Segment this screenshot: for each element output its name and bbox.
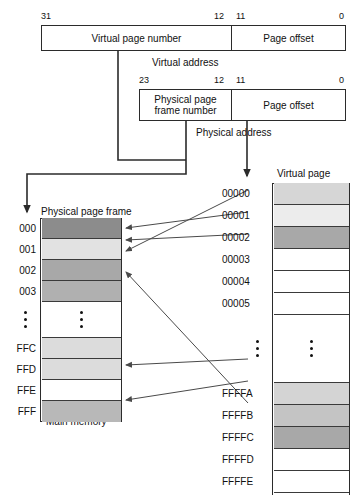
memory-row-label: 00002 — [222, 233, 268, 243]
virtual-page-column-header: Virtual page — [277, 168, 330, 179]
ellipsis-dot — [24, 318, 27, 321]
virtual-address-bit-31-label: 31 — [41, 12, 51, 21]
memory-row — [42, 380, 121, 401]
physical-address-bit-11-label: 11 — [236, 76, 245, 85]
virtual-address-bit-12-label: 12 — [214, 12, 224, 21]
physical-address-caption: Physical address — [196, 127, 272, 138]
memory-row — [274, 293, 349, 315]
physical-page-frame-number-label-line1: Physical page — [154, 94, 216, 105]
virtual-page-number-field: Virtual page number — [41, 25, 232, 51]
memory-row-label: FFC — [8, 344, 36, 354]
memory-row — [274, 227, 349, 249]
ellipsis-dot — [310, 354, 313, 357]
physical-page-frame-column-header: Physical page frame — [41, 206, 132, 217]
memory-row-label: FFE — [8, 386, 36, 396]
memory-row — [274, 405, 349, 427]
memory-row-label: 00003 — [222, 255, 268, 265]
memory-row — [42, 218, 121, 239]
physical-address-bit-23-label: 23 — [139, 76, 149, 85]
memory-row-label: 00005 — [222, 299, 268, 309]
memory-row-label: FFFFE — [222, 477, 268, 487]
memory-row-label: FFFFB — [222, 411, 268, 421]
memory-row — [274, 205, 349, 227]
physical-address-bit-12-label: 12 — [214, 76, 224, 85]
memory-row — [274, 427, 349, 449]
memory-row-label: FFF — [8, 407, 36, 417]
virtual-address-caption: Virtual address — [152, 57, 219, 68]
ellipsis-dot — [80, 318, 83, 321]
memory-row — [274, 449, 349, 471]
ellipsis-dot — [256, 340, 259, 343]
virtual-page-offset-label: Page offset — [263, 33, 313, 44]
memory-row — [274, 383, 349, 405]
memory-row-label: FFD — [8, 365, 36, 375]
memory-row-label: 00004 — [222, 277, 268, 287]
memory-row-label: 00000 — [222, 189, 268, 199]
memory-row-label: FFFFA — [222, 389, 268, 399]
memory-row — [42, 338, 121, 359]
memory-row — [274, 183, 349, 205]
physical-address-bit-0-label: 0 — [339, 76, 344, 85]
ellipsis-dot — [80, 325, 83, 328]
memory-row — [42, 281, 121, 302]
physical-page-frame-number-field: Physical page frame number — [139, 89, 232, 121]
diagram-canvas: 31 12 11 0 Virtual page number Page offs… — [0, 0, 358, 495]
ellipsis-dot — [24, 311, 27, 314]
memory-row-label: 000 — [8, 224, 36, 234]
memory-row-label: 003 — [8, 287, 36, 297]
ellipsis-dot — [310, 347, 313, 350]
virtual-address-bit-11-label: 11 — [236, 12, 245, 21]
memory-row — [274, 471, 349, 493]
memory-row — [42, 401, 121, 422]
ellipsis-dot — [80, 311, 83, 314]
ellipsis-dot — [24, 325, 27, 328]
memory-row-label: 00001 — [222, 211, 268, 221]
memory-row-label: 001 — [8, 245, 36, 255]
memory-row-label: FFFFD — [222, 455, 268, 465]
physical-page-frame-number-label-line2: frame number — [154, 105, 216, 116]
ellipsis-dot — [256, 354, 259, 357]
memory-row-label: 002 — [8, 266, 36, 276]
memory-row — [274, 271, 349, 293]
physical-page-offset-label: Page offset — [263, 100, 313, 111]
ellipsis-dot — [256, 347, 259, 350]
virtual-page-offset-field: Page offset — [231, 25, 346, 51]
virtual-page-number-label: Virtual page number — [92, 33, 182, 44]
memory-row — [42, 260, 121, 281]
ellipsis-dot — [310, 340, 313, 343]
physical-page-offset-field: Page offset — [231, 89, 346, 121]
memory-row — [42, 239, 121, 260]
memory-row-label: FFFFC — [222, 433, 268, 443]
memory-row — [274, 249, 349, 271]
virtual-address-bit-0-label: 0 — [339, 12, 344, 21]
memory-row — [42, 359, 121, 380]
